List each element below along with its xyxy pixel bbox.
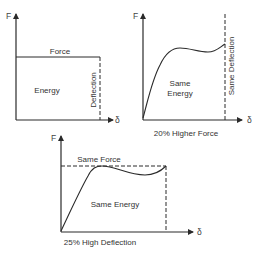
- same-deflection-label: Same Deflection: [227, 37, 236, 96]
- y-axis-label: F: [51, 133, 56, 143]
- same-energy-label-line2: Energy: [167, 89, 192, 98]
- deflection-label: Deflection: [89, 72, 98, 108]
- same-energy-label-line1: Same: [170, 79, 191, 88]
- force-deflection-diagrams: F δ Force Energy Deflection F δ Same Ene…: [0, 0, 260, 254]
- diagram-higher-deflection: F δ Same Force Same Energy 25% High Defl…: [51, 133, 202, 247]
- x-axis-label: δ: [197, 227, 202, 237]
- caption: 20% Higher Force: [154, 129, 219, 138]
- force-curve: [61, 166, 166, 231]
- same-force-label: Same Force: [77, 155, 121, 164]
- x-axis-label: δ: [115, 115, 120, 125]
- diagram-higher-force: F δ Same Energy Same Deflection 20% High…: [133, 11, 252, 138]
- y-axis-label: F: [133, 11, 138, 21]
- y-axis-label: F: [6, 11, 11, 21]
- force-label: Force: [50, 47, 71, 56]
- diagram-baseline: F δ Force Energy Deflection: [6, 11, 120, 125]
- caption: 25% High Deflection: [64, 238, 136, 247]
- x-axis-label: δ: [247, 115, 252, 125]
- energy-label: Energy: [34, 86, 59, 95]
- same-energy-label: Same Energy: [91, 200, 139, 209]
